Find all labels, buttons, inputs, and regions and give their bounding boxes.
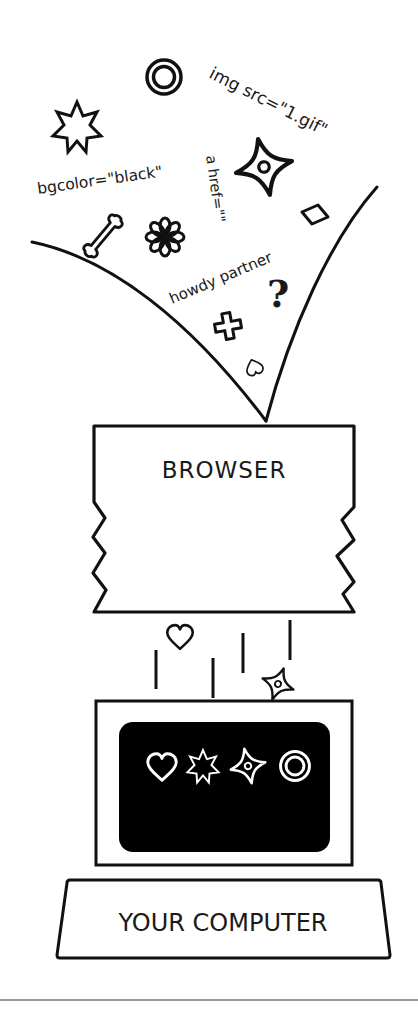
- monitor-screen: [119, 722, 330, 852]
- your-computer-label: YOUR COMPUTER: [117, 909, 327, 937]
- falling-content: [156, 620, 299, 705]
- img-src-label: img src="1.gif": [206, 63, 331, 140]
- diamond-icon: [302, 205, 328, 224]
- sparkle-icon: [230, 133, 298, 201]
- funnel: img src="1.gif" bgcolor="black" a href="…: [32, 60, 377, 421]
- href-label: a href="": [203, 154, 228, 223]
- sparkle-icon: [257, 663, 299, 705]
- ring-icon: [147, 60, 181, 94]
- howdy-partner-label: howdy partner: [167, 248, 276, 308]
- browser-diagram: img src="1.gif" bgcolor="black" a href="…: [0, 0, 418, 1010]
- heart-icon: [167, 625, 193, 649]
- computer-base: YOUR COMPUTER: [57, 880, 390, 958]
- bgcolor-label: bgcolor="black": [36, 163, 164, 198]
- cross-icon: [213, 311, 243, 341]
- flower-icon: [146, 218, 184, 256]
- browser-label: BROWSER: [162, 457, 287, 483]
- small-heart-icon: [244, 357, 265, 377]
- question-mark-icon: ?: [267, 271, 289, 316]
- bone-icon: [81, 212, 125, 260]
- browser-box: BROWSER: [93, 426, 354, 612]
- monitor: [96, 701, 352, 865]
- burst-star-icon: [53, 102, 101, 152]
